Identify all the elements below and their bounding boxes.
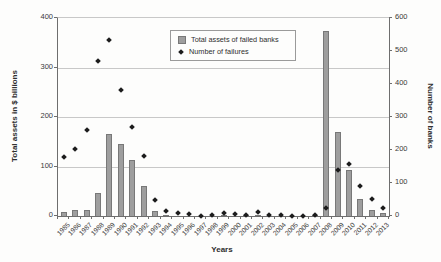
bar-2002 — [255, 215, 261, 216]
tickmark — [183, 216, 184, 219]
bar-1992 — [141, 186, 147, 216]
marker-2001 — [243, 212, 249, 218]
tickmark — [160, 216, 161, 219]
tickmark — [171, 216, 172, 219]
tickmark — [54, 166, 57, 167]
marker-1989 — [107, 37, 113, 43]
tickmark — [342, 216, 343, 219]
bar-1986 — [72, 210, 78, 216]
marker-1986 — [72, 146, 78, 152]
tickmark — [54, 17, 57, 18]
legend-label-markers: Number of failures — [189, 48, 249, 56]
tickmark — [125, 216, 126, 219]
bar-1990 — [118, 144, 124, 216]
tickmark — [354, 216, 355, 219]
y-left-tick-200: 200 — [40, 112, 53, 120]
marker-2011 — [358, 183, 364, 189]
bar-2008 — [323, 31, 329, 216]
tickmark — [308, 216, 309, 219]
marker-2004 — [278, 212, 284, 218]
tickmark — [251, 216, 252, 219]
tickmark — [68, 216, 69, 219]
tickmark — [148, 216, 149, 219]
tickmark — [365, 216, 366, 219]
marker-2013 — [380, 205, 386, 211]
tickmark — [91, 216, 92, 219]
marker-1997 — [198, 213, 204, 219]
tickmark — [377, 216, 378, 219]
marker-1992 — [141, 153, 147, 159]
marker-1996 — [186, 211, 192, 217]
bar-1988 — [95, 193, 101, 216]
tickmark — [388, 216, 389, 219]
bar-1993 — [152, 211, 158, 216]
tickmark — [389, 83, 392, 84]
y-left-tick-400: 400 — [40, 13, 53, 21]
marker-1998 — [209, 212, 215, 218]
marker-2003 — [266, 212, 272, 218]
legend-item-bars: Total assets of failed banks — [178, 36, 289, 44]
marker-2000 — [232, 211, 238, 217]
gridline — [58, 117, 389, 118]
y-right-tick-400: 400 — [395, 79, 408, 87]
tickmark — [240, 216, 241, 219]
bar-2012 — [369, 210, 375, 216]
marker-1987 — [84, 127, 90, 133]
bar-1985 — [61, 212, 67, 216]
bar-1989 — [106, 134, 112, 216]
tickmark — [205, 216, 206, 219]
bar-1991 — [129, 160, 135, 216]
tickmark — [80, 216, 81, 219]
y-right-tick-300: 300 — [395, 112, 408, 120]
gridline — [58, 68, 389, 69]
legend-item-markers: Number of failures — [178, 48, 289, 56]
marker-1994 — [164, 208, 170, 214]
tickmark — [320, 216, 321, 219]
marker-1990 — [118, 87, 124, 93]
tickmark — [389, 182, 392, 183]
tickmark — [54, 67, 57, 68]
y-right-tick-0: 0 — [395, 211, 399, 219]
tickmark — [389, 215, 392, 216]
tickmark — [297, 216, 298, 219]
tickmark — [137, 216, 138, 219]
plot-area: Total assets of failed banks Number of f… — [57, 17, 390, 217]
y-left-tick-100: 100 — [40, 162, 53, 170]
tickmark — [389, 17, 392, 18]
bar-2010 — [346, 170, 352, 216]
y-right-tick-600: 600 — [395, 13, 408, 21]
y-right-tick-100: 100 — [395, 178, 408, 186]
chart-figure: Total assets in $ billions Number of ban… — [0, 0, 441, 262]
bar-2013 — [380, 213, 386, 216]
y-right-tick-200: 200 — [395, 145, 408, 153]
tickmark — [57, 216, 58, 219]
marker-2012 — [369, 196, 375, 202]
marker-2005 — [289, 213, 295, 219]
y-left-tick-0: 0 — [49, 211, 53, 219]
bar-2011 — [357, 199, 363, 216]
tickmark — [274, 216, 275, 219]
marker-2006 — [301, 213, 307, 219]
y-left-tick-300: 300 — [40, 63, 53, 71]
tickmark — [331, 216, 332, 219]
legend-label-bars: Total assets of failed banks — [191, 36, 279, 44]
marker-1993 — [152, 197, 158, 203]
marker-1995 — [175, 211, 181, 217]
tickmark — [228, 216, 229, 219]
tickmark — [262, 216, 263, 219]
tickmark — [114, 216, 115, 219]
tickmark — [54, 116, 57, 117]
y-axis-title-left: Total assets in $ billions — [10, 70, 19, 162]
marker-1985 — [61, 154, 67, 160]
tickmark — [194, 216, 195, 219]
y-axis-title-right: Number of banks — [426, 83, 435, 148]
bar-2009 — [335, 132, 341, 216]
bar-1987 — [84, 210, 90, 216]
tickmark — [217, 216, 218, 219]
diamond-swatch-icon — [178, 49, 184, 55]
marker-2007 — [312, 212, 318, 218]
tickmark — [389, 116, 392, 117]
y-right-tick-500: 500 — [395, 46, 408, 54]
x-axis-title: Years — [211, 245, 232, 254]
tickmark — [285, 216, 286, 219]
